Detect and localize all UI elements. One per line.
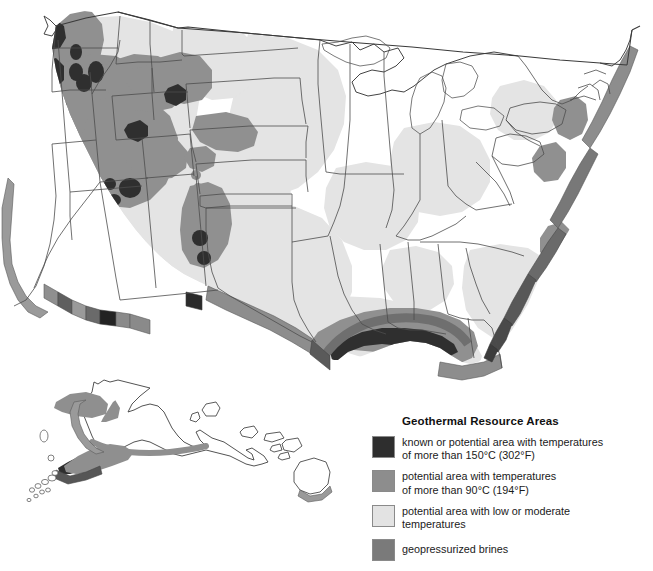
hawaii-oahu <box>240 426 258 438</box>
legend-title: Geothermal Resource Areas <box>402 415 622 427</box>
hawaii-lanai <box>270 444 282 452</box>
bering-islands <box>40 430 54 461</box>
legend-item-geopressurized-brines[interactable]: geopressurized brines <box>372 539 622 561</box>
legend-swatch-low-moderate-temperature <box>372 505 395 527</box>
hawaii-kauai <box>202 402 220 416</box>
legend-item-moderate-high-temperature[interactable]: potential area with temperatures of more… <box>372 470 622 496</box>
hawaii-inset <box>190 402 332 502</box>
geothermal-resource-map: Geothermal Resource Areas known or poten… <box>0 0 653 571</box>
legend-label-geopressurized-brines: geopressurized brines <box>402 539 508 556</box>
hawaii-niihau <box>190 412 200 422</box>
legend-swatch-geopressurized-brines <box>372 539 395 561</box>
legend-label-moderate-high-temperature: potential area with temperatures of more… <box>402 470 556 496</box>
legend-swatch-moderate-high-temperature <box>372 470 395 492</box>
legend-label-high-temperature: known or potential area with temperature… <box>402 436 603 462</box>
hawaii-molokai <box>264 432 284 442</box>
alaska-inset <box>27 380 268 502</box>
legend-item-high-temperature[interactable]: known or potential area with temperature… <box>372 436 622 462</box>
legend-item-low-moderate-temperature[interactable]: potential area with low or moderate temp… <box>372 505 622 531</box>
conus-region <box>2 10 643 380</box>
hawaii-maui <box>282 438 302 452</box>
legend-label-low-moderate-temperature: potential area with low or moderate temp… <box>402 505 570 531</box>
legend-swatch-high-temperature <box>372 436 395 458</box>
map-legend: Geothermal Resource Areas known or poten… <box>372 415 622 569</box>
hawaii-kahoolawe <box>278 452 290 460</box>
hawaii-bigisland <box>294 458 330 494</box>
aleutian-islands <box>27 471 58 502</box>
